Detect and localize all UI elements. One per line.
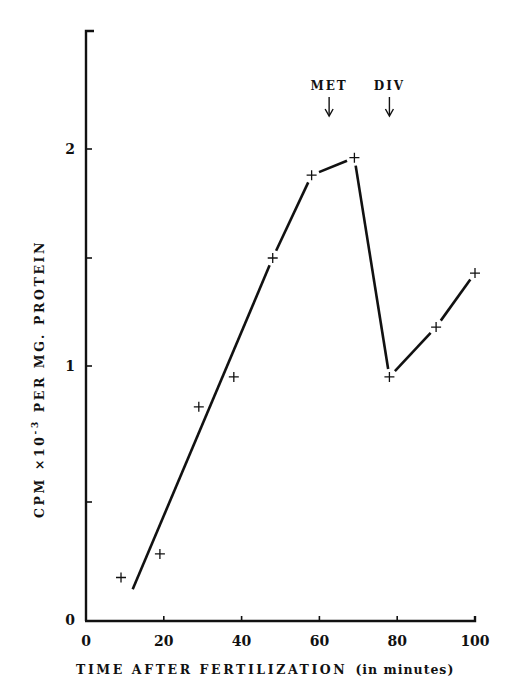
annotations: METDIV (310, 79, 405, 116)
line-segment (319, 161, 347, 172)
y-tick-label: 0 (65, 612, 75, 628)
axis-labels: TIME AFTER FERTILIZATION(in minutes) CPM… (30, 240, 454, 677)
plus-marker (431, 322, 441, 332)
data-markers (116, 153, 480, 583)
x-axis-line (85, 616, 475, 621)
axes: 020406080100012 (65, 31, 490, 649)
plus-marker (349, 153, 359, 163)
x-tick-label: 40 (232, 633, 252, 649)
line-segment (356, 166, 388, 369)
y-tick-label: 1 (65, 358, 75, 374)
plus-marker (229, 372, 239, 382)
annotation-label: DIV (374, 79, 405, 93)
x-tick-label: 80 (387, 633, 407, 649)
line-segment (133, 265, 270, 589)
x-tick-label: 20 (154, 633, 174, 649)
plus-marker (155, 549, 165, 559)
line-segment (441, 280, 471, 321)
plus-marker (194, 402, 204, 412)
x-tick-label: 0 (81, 633, 91, 649)
x-tick-label: 100 (460, 633, 489, 649)
y-axis-line (86, 31, 94, 621)
annotation-label: MET (310, 79, 347, 93)
plus-marker (268, 253, 278, 263)
plus-marker (384, 372, 394, 382)
x-tick-label: 60 (310, 633, 330, 649)
plot-lines (133, 161, 471, 590)
chart: 020406080100012 METDIV TIME AFTER FERTIL… (0, 0, 517, 699)
plus-marker (116, 573, 126, 583)
plus-marker (307, 170, 317, 180)
line-segment (276, 182, 308, 250)
x-axis-title: TIME AFTER FERTILIZATION(in minutes) (76, 662, 454, 677)
line-segment (395, 333, 431, 371)
plus-marker (470, 268, 480, 278)
y-axis-title: CPM ×10-3 PER MG. PROTEIN (30, 240, 47, 518)
y-tick-label: 2 (65, 141, 75, 157)
